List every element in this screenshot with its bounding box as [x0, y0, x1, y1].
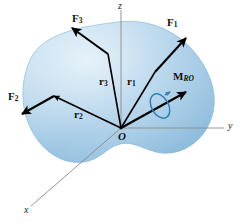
- force-vector-2-label: F2: [8, 91, 18, 103]
- force-2-symbol: F: [8, 90, 15, 102]
- mechanics-free-body-diagram: [0, 0, 245, 223]
- resultant-moment-label: MRO: [173, 71, 194, 83]
- figure-container: z y x O F1 F2 F3 r3 r1 r2 MRO: [0, 0, 245, 223]
- moment-symbol: M: [173, 70, 183, 82]
- r3-subscript: 3: [104, 79, 108, 88]
- x-axis-label: x: [24, 205, 28, 215]
- force-3-subscript: 3: [79, 16, 83, 25]
- force-3-symbol: F: [72, 12, 79, 24]
- force-1-subscript: 1: [174, 20, 178, 29]
- position-vector-3-label: r3: [99, 76, 108, 88]
- force-vector-3-label: F3: [72, 13, 82, 25]
- moment-subscript-o: O: [188, 74, 193, 83]
- r1-subscript: 1: [132, 79, 136, 88]
- force-2-subscript: 2: [15, 94, 19, 103]
- origin-label: O: [118, 131, 126, 142]
- force-1-symbol: F: [167, 16, 174, 28]
- y-axis-label: y: [228, 121, 232, 131]
- force-vector-1-label: F1: [167, 17, 177, 29]
- position-vector-2-label: r2: [74, 109, 83, 121]
- r2-subscript: 2: [79, 112, 83, 121]
- z-axis-label: z: [118, 1, 122, 11]
- position-vector-1-label: r1: [127, 76, 136, 88]
